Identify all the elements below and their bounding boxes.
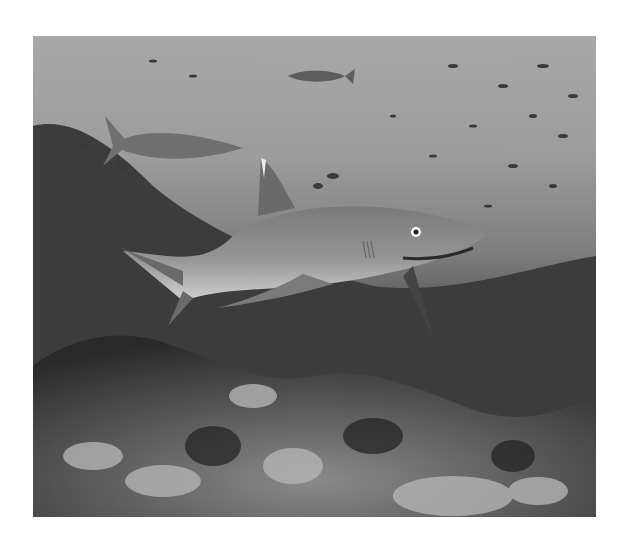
photo-scene bbox=[33, 36, 596, 517]
fish-upper-left bbox=[103, 116, 243, 166]
fish-top bbox=[288, 69, 355, 84]
shark-photo bbox=[33, 36, 596, 517]
